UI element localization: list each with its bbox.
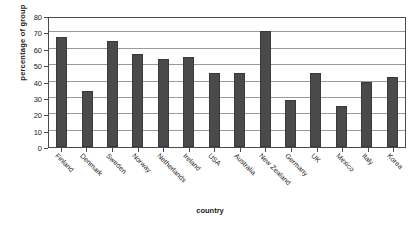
bar	[310, 73, 321, 147]
bar-slot	[379, 18, 404, 147]
x-axis-tick-label: Korea	[386, 152, 404, 170]
bar	[56, 37, 67, 147]
x-axis-tick-label: Italy	[361, 152, 375, 166]
y-axis-tick-label: 20	[18, 111, 42, 120]
x-axis-tick-label-slot: Denmark	[74, 150, 100, 200]
bar-slot	[176, 18, 201, 147]
bar	[209, 73, 220, 147]
bar	[158, 59, 169, 147]
bar-slot	[227, 18, 252, 147]
bar-slot	[354, 18, 379, 147]
x-axis-tick-label: Finland	[54, 152, 75, 173]
x-axis-tick-label-slot: Ireland	[176, 150, 202, 200]
x-axis-tick-label: UK	[310, 152, 322, 164]
bar-slot	[252, 18, 277, 147]
bar	[387, 77, 398, 147]
bar-slot	[278, 18, 303, 147]
bar	[183, 57, 194, 147]
x-axis-tick-label-slot: Australia	[227, 150, 253, 200]
bar	[260, 31, 271, 147]
x-axis-tick-label-slot: Finland	[48, 150, 74, 200]
x-axis-tick-label-slot: Germany	[278, 150, 304, 200]
bar	[132, 54, 143, 147]
y-axis-tick-label: 0	[18, 144, 42, 153]
x-axis-tick-label-slot: New Zealand	[253, 150, 279, 200]
bar	[82, 91, 93, 147]
bar-slot	[151, 18, 176, 147]
x-axis-tick-labels: FinlandDenmarkSwedenNorwayNetherlandsIre…	[48, 150, 406, 200]
y-axis-tick-label: 50	[18, 62, 42, 71]
bar-slot	[100, 18, 125, 147]
x-axis-tick-label-slot: Korea	[381, 150, 407, 200]
bar-slot	[329, 18, 354, 147]
bar	[336, 106, 347, 147]
bar	[107, 41, 118, 147]
y-axis-tick-label: 40	[18, 78, 42, 87]
bar-slot	[125, 18, 150, 147]
x-axis-tick-label-slot: Norway	[125, 150, 151, 200]
bar	[234, 73, 245, 147]
x-axis-tick-label-slot: Sweden	[99, 150, 125, 200]
y-axis-tick-label: 60	[18, 45, 42, 54]
x-axis-title: country	[0, 206, 420, 215]
y-axis-tick-label: 30	[18, 94, 42, 103]
bar-slot	[303, 18, 328, 147]
bar-slot	[74, 18, 99, 147]
y-axis-tick-label: 70	[18, 29, 42, 38]
bar-series	[49, 18, 405, 147]
x-axis-tick-label-slot: UK	[304, 150, 330, 200]
plot-area	[48, 17, 406, 148]
bar-chart: percentage of group 01020304050607080 Fi…	[0, 0, 420, 228]
x-axis-tick-label-slot: Netherlands	[150, 150, 176, 200]
x-axis-tick-label-slot: USA	[201, 150, 227, 200]
x-axis-tick-label-slot: Mexico	[329, 150, 355, 200]
x-axis-tick-label: Mexico	[335, 152, 356, 173]
x-axis-tick-label: Ireland	[182, 152, 202, 172]
y-axis-tick-label: 10	[18, 127, 42, 136]
bar-slot	[49, 18, 74, 147]
x-axis-tick-label: Norway	[131, 152, 153, 174]
y-axis-tick-label: 80	[18, 13, 42, 22]
bar-slot	[202, 18, 227, 147]
x-axis-tick-label-slot: Italy	[355, 150, 381, 200]
bar	[285, 100, 296, 147]
x-axis-tick-label: USA	[207, 152, 222, 167]
bar	[361, 82, 372, 148]
